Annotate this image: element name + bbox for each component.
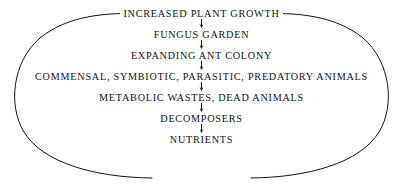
node-label: COMMENSAL, SYMBIOTIC, PARASITIC, PREDATO… [32,71,371,82]
down-arrow-icon [197,19,206,28]
cycle-diagram: INCREASED PLANT GROWTH FUNGUS GARDEN EXP… [0,0,403,191]
down-arrow-icon [197,82,206,91]
node-nutrients: NUTRIENTS [162,134,241,145]
node-fungus-garden: FUNGUS GARDEN [151,29,253,49]
node-label: INCREASED PLANT GROWTH [120,8,282,19]
down-arrow-icon [197,124,206,133]
node-metabolic-wastes: METABOLIC WASTES, DEAD ANIMALS [96,92,307,112]
down-arrow-icon [197,40,206,49]
node-expanding-ant-colony: EXPANDING ANT COLONY [128,50,275,70]
down-arrow-icon [197,61,206,70]
node-label: FUNGUS GARDEN [151,29,253,40]
node-increased-plant-growth: INCREASED PLANT GROWTH [120,8,282,28]
node-label: METABOLIC WASTES, DEAD ANIMALS [96,92,307,103]
down-arrow-icon [197,103,206,112]
node-label: EXPANDING ANT COLONY [128,50,275,61]
node-commensal-animals: COMMENSAL, SYMBIOTIC, PARASITIC, PREDATO… [32,71,371,91]
flow-node-stack: INCREASED PLANT GROWTH FUNGUS GARDEN EXP… [0,0,403,191]
node-label: DECOMPOSERS [157,113,245,124]
node-decomposers: DECOMPOSERS [157,113,245,133]
node-label: NUTRIENTS [162,134,241,145]
